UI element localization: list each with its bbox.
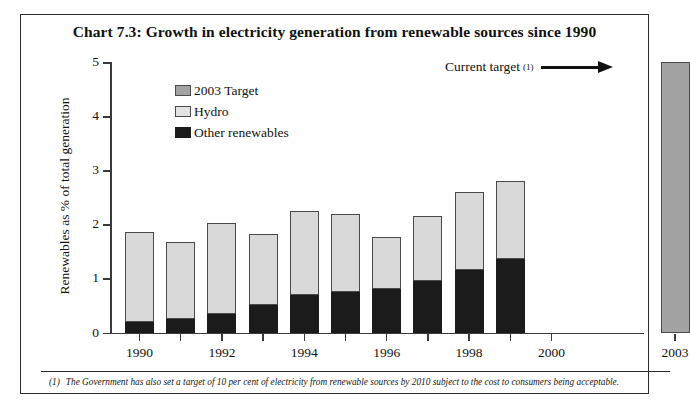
right-arrow-icon: [541, 61, 613, 73]
x-tick: [221, 334, 223, 341]
bar-segment-hydro: [455, 192, 484, 270]
bar-segment-other: [455, 270, 484, 332]
x-tick-label: 1994: [291, 345, 318, 361]
x-tick-label: 2003: [662, 345, 689, 361]
bar-segment-other: [166, 319, 195, 333]
annotation-superscript: (1): [523, 62, 534, 72]
x-tick: [262, 334, 264, 341]
x-tick-label: 2000: [538, 345, 565, 361]
chart-legend: 2003 TargetHydroOther renewables: [175, 80, 289, 143]
bar-segment-hydro: [207, 223, 236, 314]
x-tick: [510, 334, 512, 341]
x-tick: [304, 334, 306, 341]
x-tick: [139, 334, 141, 341]
bar-1993: [249, 234, 278, 333]
bar-1995: [331, 213, 360, 332]
x-tick: [551, 334, 553, 341]
bar-segment-hydro: [496, 181, 525, 259]
x-tick: [468, 334, 470, 341]
x-tick: [386, 334, 388, 341]
chart-frame: Chart 7.3: Growth in electricity generat…: [20, 14, 649, 394]
x-tick: [345, 334, 347, 341]
y-tick-label: 4: [92, 108, 99, 124]
bar-1990: [125, 232, 154, 332]
y-tick: [103, 62, 110, 64]
bar-segment-other: [413, 281, 442, 332]
y-tick: [103, 224, 110, 226]
bar-segment-other: [372, 289, 401, 332]
y-tick-label: 5: [92, 54, 99, 70]
chart-title: Chart 7.3: Growth in electricity generat…: [21, 23, 648, 41]
y-tick: [103, 278, 110, 280]
x-tick-label: 1998: [456, 345, 483, 361]
bar-segment-hydro: [372, 237, 401, 289]
bar-1994: [290, 211, 319, 333]
footnote-text: The Government has also set a target of …: [66, 376, 619, 389]
bar-segment-hydro: [249, 234, 278, 306]
bar-1997: [413, 216, 442, 332]
current-target-annotation: Current target (1): [445, 59, 613, 75]
bar-2003: [661, 62, 690, 333]
bar-segment-hydro: [166, 242, 195, 319]
y-tick-label: 1: [92, 270, 99, 286]
bar-segment-hydro: [331, 214, 360, 292]
legend-label: Hydro: [194, 104, 229, 120]
bar-segment-other: [290, 295, 319, 333]
y-tick-label: 2: [92, 216, 99, 232]
bar-1992: [207, 223, 236, 333]
footnote: (1) The Government has also set a target…: [41, 371, 670, 393]
x-tick: [674, 334, 676, 341]
bar-segment-other: [331, 292, 360, 333]
annotation-text: Current target: [445, 59, 520, 75]
y-axis-line: [110, 62, 112, 334]
legend-item-other: Other renewables: [175, 122, 289, 143]
bar-segment-hydro: [290, 211, 319, 295]
legend-swatch-other: [175, 127, 191, 138]
x-tick-label: 1990: [126, 345, 153, 361]
bar-segment-other: [125, 322, 154, 333]
legend-label: 2003 Target: [194, 83, 258, 99]
y-tick-label: 0: [92, 325, 99, 341]
bar-segment-hydro: [413, 216, 442, 281]
legend-item-target: 2003 Target: [175, 80, 289, 101]
legend-item-hydro: Hydro: [175, 101, 289, 122]
x-tick-label: 1992: [208, 345, 235, 361]
y-axis-label: Renewables as % of total generation: [57, 71, 73, 321]
y-tick-label: 3: [92, 162, 99, 178]
bar-1996: [372, 237, 401, 333]
x-tick: [427, 334, 429, 341]
bar-segment-target: [661, 62, 690, 333]
x-tick: [180, 334, 182, 341]
legend-swatch-target: [175, 85, 191, 96]
legend-label: Other renewables: [194, 125, 289, 141]
footnote-marker: (1): [49, 376, 60, 389]
y-tick: [103, 333, 110, 335]
y-tick: [103, 116, 110, 118]
x-axis-line: [110, 333, 644, 335]
y-tick: [103, 170, 110, 172]
bar-segment-other: [207, 314, 236, 333]
bar-1999: [496, 181, 525, 332]
bar-1991: [166, 242, 195, 333]
bar-1998: [455, 192, 484, 333]
bar-segment-hydro: [125, 232, 154, 321]
x-tick-label: 1996: [373, 345, 400, 361]
bar-segment-other: [249, 305, 278, 332]
bar-segment-other: [496, 259, 525, 332]
legend-swatch-hydro: [175, 106, 191, 117]
